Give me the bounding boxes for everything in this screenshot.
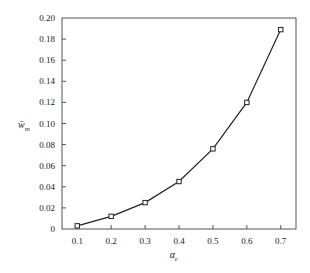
x-tick-label: 0.6 [241,236,253,246]
x-tick-label: 0.3 [139,236,151,246]
x-tick-label: 0.1 [72,236,83,246]
square-marker [245,100,249,104]
x-axis-ticks: 0.10.20.30.40.50.60.7 [72,225,287,246]
square-marker [143,200,147,204]
y-tick-label: 0.18 [39,34,55,44]
x-tick-label: 0.2 [106,236,117,246]
y-tick-label: 0.02 [39,203,55,213]
line-chart: 00.020.040.060.080.100.120.140.160.180.2… [0,0,310,273]
x-tick-label: 0.7 [275,236,287,246]
x-axis-label: αc [170,249,179,263]
square-marker [279,27,283,31]
y-tick-label: 0.06 [39,161,55,171]
square-marker [177,179,181,183]
y-tick-label: 0.14 [39,76,55,86]
y-tick-label: 0.12 [39,97,55,107]
y-tick-label: 0.08 [39,140,55,150]
square-marker [75,224,79,228]
y-tick-label: 0.04 [39,182,55,192]
y-tick-label: 0.10 [39,119,55,129]
square-marker [211,147,215,151]
x-tick-label: 0.5 [207,236,219,246]
data-markers [75,27,283,228]
y-tick-label: 0.20 [39,13,55,23]
y-axis-label: w̄m [18,119,30,133]
square-marker [109,214,113,218]
y-tick-label: 0 [51,224,56,234]
plot-frame [62,18,296,229]
data-series-line [77,30,280,226]
x-tick-label: 0.4 [173,236,185,246]
y-tick-label: 0.16 [39,55,55,65]
